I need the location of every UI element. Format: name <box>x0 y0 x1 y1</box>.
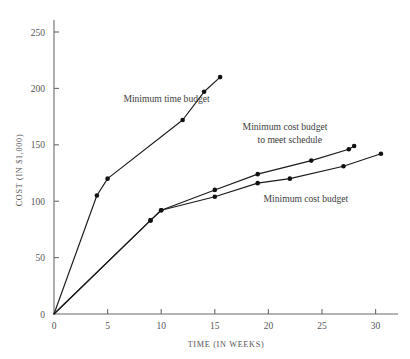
series-annotation-label: Minimum cost budget <box>243 121 328 132</box>
chart-container: 051015202530 050100150200250 Minimum tim… <box>0 0 410 359</box>
data-point-marker <box>218 75 223 80</box>
y-axis-ticks: 050100150200250 <box>31 28 59 320</box>
series-annotation-label: Minimum time budget <box>123 93 210 104</box>
series-3 <box>54 152 383 314</box>
data-point-marker <box>347 147 352 152</box>
series-1 <box>54 75 222 314</box>
y-tick-label: 100 <box>31 197 46 207</box>
data-point-marker <box>255 172 260 177</box>
x-tick-label: 25 <box>317 321 327 331</box>
series-line-path <box>54 154 381 314</box>
data-point-marker <box>379 152 384 157</box>
data-point-marker <box>159 208 164 213</box>
data-point-marker <box>309 158 314 163</box>
y-tick-label: 250 <box>31 28 46 38</box>
cost-vs-time-line-chart: 051015202530 050100150200250 Minimum tim… <box>0 0 410 359</box>
series-annotation-label: Minimum cost budget <box>264 193 349 204</box>
x-tick-label: 0 <box>52 321 57 331</box>
x-tick-label: 10 <box>156 321 166 331</box>
y-axis-title: COST (IN $1,000) <box>15 134 24 207</box>
data-point-marker <box>213 194 218 199</box>
x-axis-title: TIME (IN WEEKS) <box>188 340 265 349</box>
series-line-path <box>54 146 354 314</box>
x-tick-label: 5 <box>105 321 110 331</box>
data-point-marker <box>148 218 153 223</box>
data-point-marker <box>255 181 260 186</box>
data-point-marker <box>352 144 357 149</box>
x-tick-label: 15 <box>210 321 220 331</box>
x-tick-label: 20 <box>264 321 274 331</box>
series-2 <box>54 144 356 314</box>
axes <box>54 20 398 314</box>
y-tick-label: 150 <box>31 140 46 150</box>
data-point-marker <box>105 176 110 181</box>
data-point-marker <box>288 176 293 181</box>
series-annotations: Minimum time budgetMinimum cost budgetto… <box>123 93 348 204</box>
x-tick-label: 30 <box>371 321 381 331</box>
y-tick-label: 50 <box>36 253 46 263</box>
x-axis-ticks: 051015202530 <box>52 309 381 331</box>
y-tick-label: 0 <box>40 310 45 320</box>
y-tick-label: 200 <box>31 84 46 94</box>
series-annotation-label: to meet schedule <box>258 134 322 145</box>
data-point-marker <box>95 193 100 198</box>
data-point-marker <box>213 188 218 193</box>
series-line-path <box>54 77 220 314</box>
data-point-marker <box>341 164 346 169</box>
data-point-marker <box>180 118 185 123</box>
